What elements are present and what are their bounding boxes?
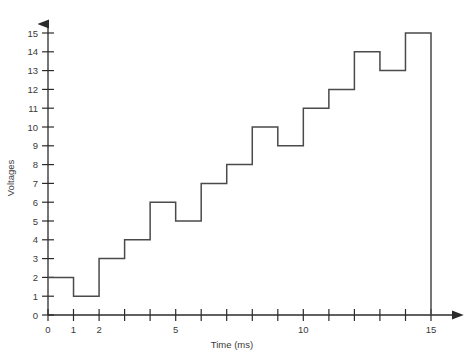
x-tick-label: 10 — [298, 324, 309, 335]
x-tick-label: 15 — [426, 324, 437, 335]
y-tick-label: 9 — [33, 140, 38, 151]
y-tick-label: 14 — [27, 46, 38, 57]
y-tick-label: 0 — [33, 310, 38, 321]
y-tick-label: 13 — [27, 65, 38, 76]
voltage-step-chart: 0 1 2 3 4 5 6 7 8 9 10 11 12 13 14 15 — [0, 0, 467, 356]
y-tick-label: 1 — [33, 291, 38, 302]
voltage-step-trace — [48, 33, 431, 315]
y-axis-title: Voltages — [5, 160, 16, 197]
y-tick-label: 12 — [27, 84, 38, 95]
chart-page: 0 1 2 3 4 5 6 7 8 9 10 11 12 13 14 15 — [0, 0, 467, 356]
x-axis-tick-labels: 0 1 2 5 10 15 — [45, 324, 436, 335]
y-tick-label: 15 — [27, 28, 38, 39]
y-tick-label: 5 — [33, 216, 38, 227]
y-tick-label: 2 — [33, 272, 38, 283]
y-tick-label: 10 — [27, 122, 38, 133]
y-axis-tick-labels: 0 1 2 3 4 5 6 7 8 9 10 11 12 13 14 15 — [27, 28, 38, 321]
x-tick-label: 2 — [96, 324, 101, 335]
x-axis-title: Time (ms) — [211, 339, 253, 350]
y-tick-label: 11 — [28, 103, 38, 114]
y-tick-label: 3 — [33, 253, 38, 264]
x-tick-label: 0 — [45, 324, 50, 335]
x-tick-label: 1 — [71, 324, 76, 335]
y-tick-label: 7 — [33, 178, 38, 189]
y-tick-label: 8 — [33, 159, 38, 170]
y-tick-label: 4 — [33, 234, 38, 245]
y-tick-label: 6 — [33, 197, 38, 208]
x-tick-label: 5 — [173, 324, 178, 335]
